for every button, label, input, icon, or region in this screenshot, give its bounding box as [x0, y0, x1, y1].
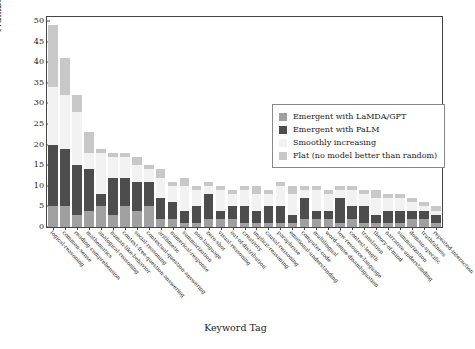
bar-group [156, 17, 166, 227]
bar-segment-emergent-lamda-gpt [312, 219, 322, 227]
bar-segment-emergent-palm [395, 211, 405, 223]
x-axis-label: Keyword Tag [0, 322, 471, 333]
y-axis-tick-label: 5 [39, 202, 44, 210]
bar-segment-smoothly-increasing [156, 178, 166, 199]
bar-group [120, 17, 130, 227]
y-axis-tick-label: 30 [34, 99, 44, 107]
bar-group [192, 17, 202, 227]
bar-segment-emergent-palm [204, 194, 214, 219]
bar-segment-flat [419, 202, 429, 206]
bar-segment-emergent-palm [228, 206, 238, 218]
bar-group [144, 17, 154, 227]
bar-segment-emergent-lamda-gpt [144, 206, 154, 227]
bar-segment-smoothly-increasing [371, 198, 381, 214]
bar-segment-smoothly-increasing [144, 169, 154, 181]
bar-segment-smoothly-increasing [407, 202, 417, 210]
bar-segment-flat [192, 186, 202, 190]
bar-segment-flat [144, 165, 154, 169]
bar-segment-emergent-lamda-gpt [204, 219, 214, 227]
legend-label: Emergent with LaMDA/GPT [293, 112, 406, 121]
bar-segment-emergent-palm [192, 206, 202, 222]
legend-swatch-emergent-lamda-gpt [279, 113, 287, 121]
bar-group [132, 17, 142, 227]
y-axis-tick-label: 45 [34, 38, 44, 46]
bar-segment-flat [347, 186, 357, 190]
bar-segment-emergent-palm [431, 215, 441, 223]
bar-segment-smoothly-increasing [180, 186, 190, 211]
bar-segment-emergent-palm [300, 198, 310, 219]
legend-label: Smoothly increasing [293, 138, 376, 147]
bar-segment-emergent-palm [132, 182, 142, 211]
bar-segment-flat [156, 169, 166, 177]
legend-label: Emergent with PaLM [293, 125, 379, 134]
bar-segment-smoothly-increasing [216, 190, 226, 211]
chart-legend: Emergent with LaMDA/GPTEmergent with PaL… [272, 104, 445, 168]
bar-group [60, 17, 70, 227]
bar-segment-smoothly-increasing [240, 190, 250, 206]
y-axis-tick-label: 0 [39, 223, 44, 231]
bar-segment-smoothly-increasing [60, 95, 70, 149]
bar-segment-smoothly-increasing [395, 198, 405, 210]
bar-segment-flat [108, 153, 118, 157]
legend-swatch-smoothly-increasing [279, 139, 287, 147]
bar-segment-emergent-lamda-gpt [60, 206, 70, 227]
bar-segment-smoothly-increasing [347, 190, 357, 206]
bar-segment-emergent-palm [335, 198, 345, 223]
legend-item: Emergent with LaMDA/GPT [279, 110, 437, 123]
bar-segment-flat [324, 190, 334, 194]
bar-segment-smoothly-increasing [168, 186, 178, 202]
bar-segment-emergent-lamda-gpt [156, 219, 166, 227]
bar-segment-flat [395, 194, 405, 198]
y-axis-tick-label: 50 [34, 17, 44, 25]
bar-segment-emergent-palm [419, 211, 429, 219]
bar-group [96, 17, 106, 227]
y-axis-tick-label: 25 [34, 120, 44, 128]
bar-segment-flat [168, 182, 178, 186]
bar-group [72, 17, 82, 227]
bar-segment-emergent-palm [48, 145, 58, 207]
bar-group [228, 17, 238, 227]
bar-segment-emergent-lamda-gpt [168, 219, 178, 227]
bar-segment-emergent-lamda-gpt [48, 206, 58, 227]
bar-group [252, 17, 262, 227]
bar-segment-smoothly-increasing [359, 194, 369, 206]
bar-segment-smoothly-increasing [288, 194, 298, 215]
bar-segment-emergent-lamda-gpt [407, 219, 417, 227]
bar-segment-smoothly-increasing [300, 190, 310, 198]
bar-segment-emergent-lamda-gpt [300, 219, 310, 227]
bar-segment-emergent-palm [108, 178, 118, 215]
bar-segment-flat [60, 58, 70, 95]
bar-segment-smoothly-increasing [324, 194, 334, 210]
bar-segment-flat [72, 95, 82, 111]
bar-segment-emergent-palm [144, 182, 154, 207]
bar-segment-emergent-lamda-gpt [120, 206, 130, 227]
bar-segment-emergent-lamda-gpt [324, 219, 334, 227]
bar-segment-emergent-palm [240, 206, 250, 222]
bar-segment-smoothly-increasing [204, 186, 214, 194]
bar-segment-smoothly-increasing [312, 190, 322, 211]
bar-segment-flat [312, 186, 322, 190]
legend-swatch-flat [279, 152, 287, 160]
bar-group [84, 17, 94, 227]
y-axis-tick-label: 10 [34, 182, 44, 190]
bar-segment-emergent-lamda-gpt [132, 211, 142, 227]
legend-item: Smoothly increasing [279, 136, 437, 149]
bar-segment-smoothly-increasing [276, 186, 286, 207]
bar-group [168, 17, 178, 227]
bar-segment-emergent-lamda-gpt [419, 219, 429, 227]
legend-swatch-emergent-palm [279, 126, 287, 134]
bar-segment-flat [407, 198, 417, 202]
x-axis-tick-labels: logical-reasoningcommon-sensereading-com… [46, 230, 443, 322]
bar-segment-flat [204, 182, 214, 186]
bar-segment-flat [371, 190, 381, 198]
bar-segment-emergent-palm [72, 165, 82, 214]
bar-segment-flat [180, 178, 190, 186]
y-axis-tick-label: 40 [34, 58, 44, 66]
bar-segment-smoothly-increasing [264, 194, 274, 206]
bar-segment-smoothly-increasing [192, 190, 202, 206]
y-axis-tick-label: 15 [34, 161, 44, 169]
bar-segment-flat [335, 186, 345, 190]
legend-label: Flat (no model better than random) [293, 151, 437, 160]
bar-segment-flat [96, 149, 106, 153]
